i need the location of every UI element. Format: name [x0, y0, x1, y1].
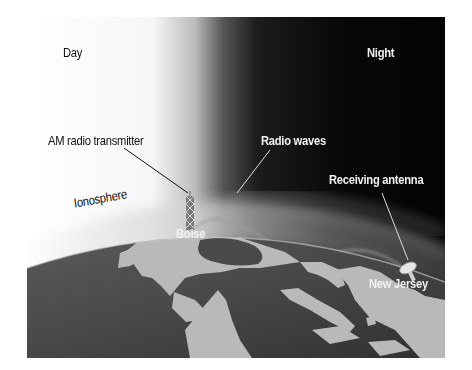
label-am-radio-transmitter: AM radio transmitter [48, 133, 144, 148]
transmitter-tower-icon [186, 191, 194, 230]
label-radio-waves: Radio waves [261, 133, 326, 148]
label-receiving-antenna: Receiving antenna [329, 172, 423, 187]
label-day: Day [63, 45, 82, 60]
label-night: Night [367, 45, 394, 60]
radio-propagation-diagram: Day Night AM radio transmitter Radio wav… [0, 0, 472, 370]
label-boise: Boise [176, 226, 205, 241]
label-new-jersey: New Jersey [369, 276, 428, 291]
